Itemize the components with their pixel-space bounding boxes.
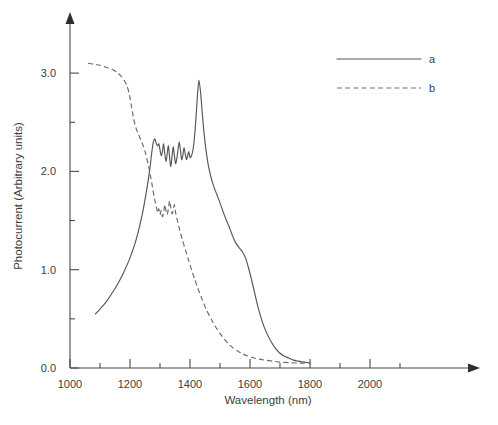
- x-tick-label: 1200: [118, 378, 142, 390]
- y-axis-arrow-icon: [66, 12, 75, 24]
- x-axis-tick-labels: 100012001400160018002000: [58, 378, 382, 390]
- y-axis-ticks: [70, 73, 79, 368]
- x-tick-label: 2000: [358, 378, 382, 390]
- x-tick-label: 1800: [298, 378, 322, 390]
- y-tick-label: 3.0: [41, 67, 56, 79]
- y-tick-label: 2.0: [41, 165, 56, 177]
- y-axis-tick-labels: 0.01.02.03.0: [41, 67, 56, 374]
- chart-figure: 0.01.02.03.0 100012001400160018002000 a …: [0, 0, 498, 425]
- legend-label-a: a: [429, 53, 436, 65]
- y-axis-title: Photocurrent (Arbitrary units): [12, 122, 24, 270]
- series-b-line: [88, 63, 307, 363]
- x-axis-title: Wavelength (nm): [224, 394, 311, 406]
- photocurrent-spectrum-chart: 0.01.02.03.0 100012001400160018002000 a …: [0, 0, 498, 425]
- legend-label-b: b: [429, 82, 435, 94]
- y-tick-label: 0.0: [41, 362, 56, 374]
- chart-legend: a b: [337, 53, 436, 94]
- y-tick-label: 1.0: [41, 264, 56, 276]
- x-axis-ticks: [70, 359, 400, 368]
- x-tick-label: 1400: [178, 378, 202, 390]
- x-tick-label: 1000: [58, 378, 82, 390]
- x-tick-label: 1600: [238, 378, 262, 390]
- x-axis-arrow-icon: [468, 364, 480, 373]
- series-a-line: [96, 80, 311, 363]
